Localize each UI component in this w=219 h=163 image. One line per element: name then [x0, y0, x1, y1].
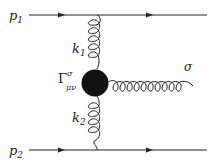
label-k2: k2: [72, 110, 86, 127]
label-p1: p1: [9, 8, 23, 25]
arrow-icon: [146, 13, 153, 18]
label-vertex-sup: σ: [67, 69, 73, 78]
feynman-diagram: p1 p2 k1 k2 Γ σ μν σ: [0, 0, 219, 163]
arrow-icon: [146, 148, 153, 153]
arrow-icon: [58, 148, 65, 153]
label-sigma: σ: [184, 60, 193, 74]
gluon-k1: [88, 15, 100, 69]
label-p2: p2: [9, 143, 23, 160]
gluon-sigma: [107, 81, 193, 91]
label-vertex-sub: μν: [66, 83, 76, 92]
gluon-k2: [88, 96, 99, 150]
arrow-icon: [58, 13, 65, 18]
label-k1: k1: [72, 41, 86, 58]
vertex-blob: [82, 70, 109, 97]
